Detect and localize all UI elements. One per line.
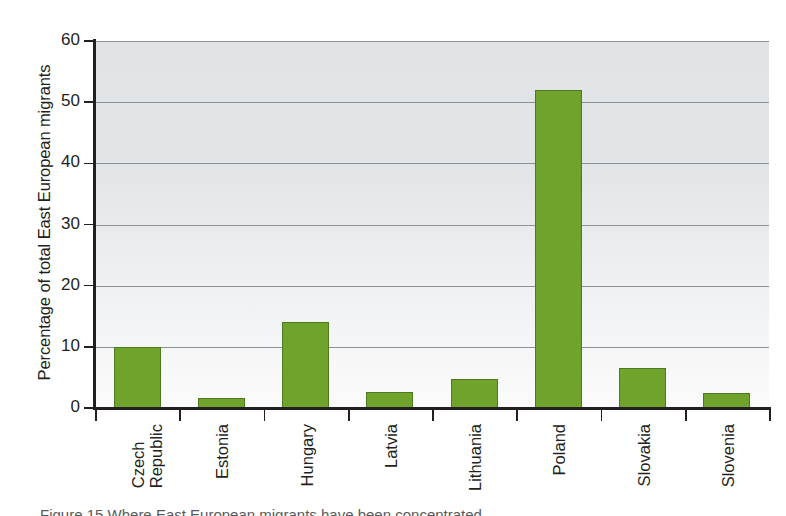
y-axis-tick-label: 40 — [34, 152, 80, 172]
x-axis-label-line: Latvia — [382, 424, 400, 468]
bar — [703, 393, 750, 408]
y-axis-tick-label: 50 — [34, 91, 80, 111]
y-axis-tick — [84, 40, 94, 42]
gridlines — [95, 41, 769, 408]
plot-area — [95, 41, 769, 408]
x-axis-label-line: Lithuania — [466, 424, 484, 491]
x-axis-label: Poland — [550, 424, 601, 442]
y-axis-tick — [84, 224, 94, 226]
x-axis-label-line: Estonia — [213, 424, 231, 479]
bar — [619, 368, 666, 408]
x-axis-label: Hungary — [298, 424, 360, 442]
x-axis-tick — [516, 409, 518, 421]
y-axis-tick-label: 20 — [34, 275, 80, 295]
y-axis-tick-label: 10 — [34, 336, 80, 356]
x-axis-label-line: Poland — [550, 424, 568, 475]
y-axis-tick — [84, 101, 94, 103]
gridline — [95, 225, 769, 226]
x-axis-label-line: Republic — [147, 424, 165, 488]
x-axis-label-line: Czech — [129, 424, 147, 488]
gridline — [95, 163, 769, 164]
gridline — [95, 102, 769, 103]
gridline — [95, 347, 769, 348]
x-axis-label: Latvia — [382, 424, 426, 442]
x-axis-label-line: Hungary — [298, 424, 316, 486]
x-axis-label: CzechRepublic — [129, 424, 193, 460]
y-axis-tick-label: 0 — [34, 397, 80, 417]
x-axis-label: Estonia — [213, 424, 268, 442]
bar — [535, 90, 582, 408]
y-axis-tick-label: 60 — [34, 30, 80, 50]
y-axis-tick — [84, 407, 94, 409]
bar — [114, 347, 161, 408]
bar — [366, 392, 413, 409]
x-axis-label-line: Slovakia — [635, 424, 653, 486]
bar-chart-figure: Percentage of total East European migran… — [0, 0, 786, 516]
x-axis-label: Lithuania — [466, 424, 533, 442]
x-axis-label: Slovenia — [719, 424, 782, 442]
figure-caption: Figure 15 Where East European migrants h… — [40, 506, 482, 516]
y-axis-tick — [84, 163, 94, 165]
x-axis-tick — [348, 409, 350, 421]
y-axis-tick — [84, 285, 94, 287]
x-axis-tick — [601, 409, 603, 421]
y-axis-tick-label: 30 — [34, 214, 80, 234]
x-axis-label: Slovakia — [635, 424, 697, 442]
x-axis-tick — [179, 409, 181, 421]
gridline — [95, 41, 769, 42]
x-axis-label-line: Slovenia — [719, 424, 737, 487]
bar — [451, 379, 498, 408]
x-axis-tick — [769, 409, 771, 421]
gridline — [95, 286, 769, 287]
bar — [282, 322, 329, 408]
x-axis-tick — [685, 409, 687, 421]
x-axis-tick — [95, 409, 97, 421]
y-axis-tick — [84, 346, 94, 348]
x-axis-tick — [432, 409, 434, 421]
x-axis-tick — [264, 409, 266, 421]
